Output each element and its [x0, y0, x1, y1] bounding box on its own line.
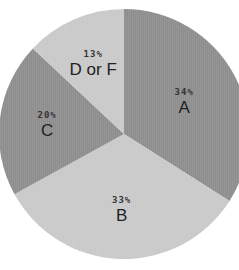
slice-percent-label: 13% [84, 49, 103, 59]
slice-percent-label: 34% [175, 87, 194, 97]
slice-percent-label: 20% [37, 110, 56, 120]
slice-category-label: C [41, 121, 53, 140]
slice-percent-label: 33% [112, 195, 131, 205]
slice-category-label: D or F [70, 60, 117, 79]
pie-chart: 34%A33%B20%C13%D or F [0, 0, 239, 270]
slice-category-label: B [116, 206, 127, 225]
slice-category-label: A [179, 98, 191, 117]
